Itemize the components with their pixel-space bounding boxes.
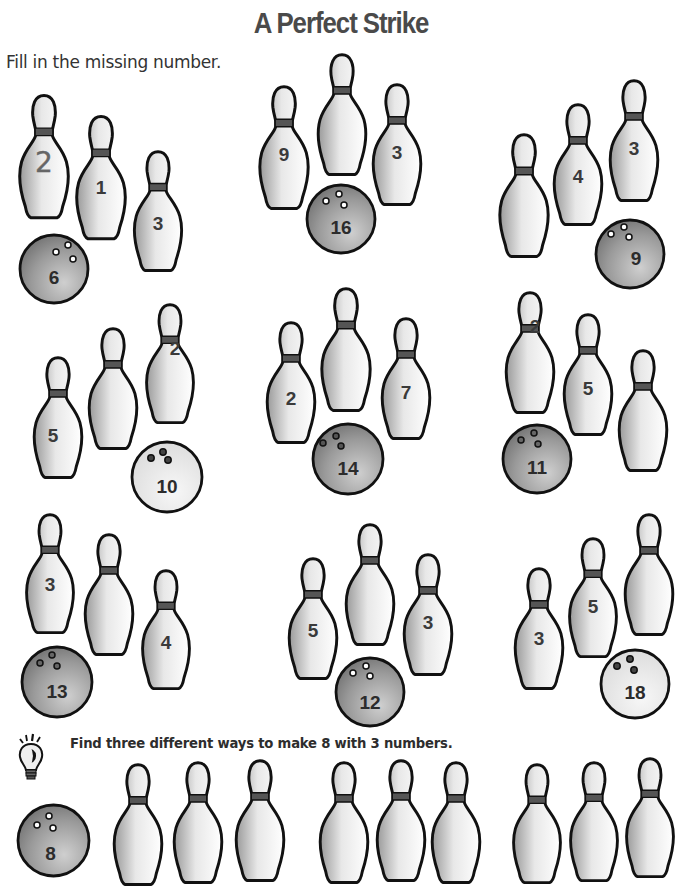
bowling-pin-icon: 5 (565, 536, 621, 662)
pin-number: 4 (550, 166, 606, 188)
bowling-pin-icon: 3 (369, 82, 425, 210)
pin-number: 3 (606, 138, 662, 160)
bowling-pin-icon: 3 (22, 512, 78, 638)
answer-pin[interactable] (509, 762, 565, 888)
answer-pin[interactable] (566, 760, 622, 886)
pin-number: 9 (256, 144, 312, 166)
answer-pin[interactable] (615, 348, 671, 476)
bowling-ball-icon: 18 (599, 648, 671, 720)
bowling-pin-icon: 5 (285, 556, 341, 684)
bowling-ball-icon: 12 (334, 656, 406, 728)
bowling-pin-icon: 3 (511, 566, 567, 694)
lightbulb-icon (14, 733, 48, 785)
instructions: Fill in the missing number. (6, 52, 221, 72)
pin-number: 3 (400, 612, 456, 634)
answer-pin[interactable] (373, 758, 429, 886)
example-answer: 2 (16, 146, 72, 179)
answer-pin[interactable] (620, 512, 678, 640)
answer-pin[interactable] (232, 758, 288, 886)
pin-number: 5 (565, 596, 621, 618)
ball-total: 6 (18, 267, 90, 289)
answer-pin[interactable] (110, 762, 166, 890)
pin-number: 4 (138, 632, 194, 654)
bowling-ball-icon: 11 (501, 423, 573, 495)
bowling-pin-icon: 3 (130, 149, 186, 276)
pin-number: 3 (130, 213, 186, 235)
answer-pin[interactable] (170, 760, 226, 888)
answer-pin[interactable] (316, 760, 372, 888)
bowling-pin-icon: 2 (502, 290, 558, 418)
ball-total: 18 (599, 682, 671, 704)
bowling-ball-icon: 6 (18, 233, 90, 305)
bowling-pin-icon: 7 (378, 316, 434, 444)
answer-pin[interactable] (318, 286, 374, 416)
bowling-ball-icon: 14 (311, 422, 385, 496)
pin-number: 5 (285, 620, 341, 642)
pin-number: 2 (502, 316, 558, 338)
answer-pin[interactable] (622, 756, 678, 882)
bowling-pin-icon: 2 (16, 92, 72, 224)
answer-pin[interactable] (81, 532, 137, 660)
pin-number: 7 (378, 382, 434, 404)
pin-number: 3 (369, 142, 425, 164)
bowling-ball-icon: 8 (16, 803, 91, 878)
answer-pin[interactable] (313, 52, 371, 180)
ball-total: 12 (334, 692, 406, 714)
pin-number: 2 (263, 388, 319, 410)
ball-total: 8 (16, 843, 91, 865)
bowling-pin-icon: 9 (256, 84, 312, 214)
pin-number: 3 (22, 574, 78, 596)
bowling-ball-icon: 10 (130, 440, 204, 514)
ball-total: 14 (311, 458, 385, 480)
bowling-pin-icon: 3 (606, 78, 662, 206)
bowling-pin-icon: 2 (142, 302, 198, 428)
page-title: A Perfect Strike (48, 6, 635, 40)
ball-total: 10 (130, 476, 204, 498)
bowling-ball-icon: 16 (305, 183, 377, 255)
answer-pin[interactable] (85, 326, 141, 454)
pin-number: 3 (511, 628, 567, 650)
pin-number: 1 (73, 177, 129, 199)
ball-total: 16 (305, 217, 377, 239)
ball-total: 13 (20, 681, 94, 703)
bowling-pin-icon: 5 (30, 355, 86, 483)
pin-number: 5 (30, 425, 86, 447)
ball-total: 11 (501, 457, 573, 479)
bowling-pin-icon: 3 (400, 552, 456, 680)
answer-pin[interactable] (428, 760, 484, 888)
bowling-ball-icon: 13 (20, 645, 94, 719)
bowling-ball-icon: 9 (594, 218, 666, 290)
answer-pin[interactable] (342, 522, 398, 650)
bowling-pin-icon: 4 (550, 102, 606, 230)
ball-total: 9 (594, 248, 666, 270)
bowling-pin-icon: 1 (73, 113, 129, 245)
bonus-prompt: Find three different ways to make 8 with… (70, 736, 453, 751)
bowling-pin-icon: 4 (138, 568, 194, 694)
pin-number: 2 (142, 338, 198, 360)
bowling-pin-icon: 5 (560, 312, 616, 440)
pin-number: 5 (560, 378, 616, 400)
answer-pin[interactable] (496, 132, 552, 262)
